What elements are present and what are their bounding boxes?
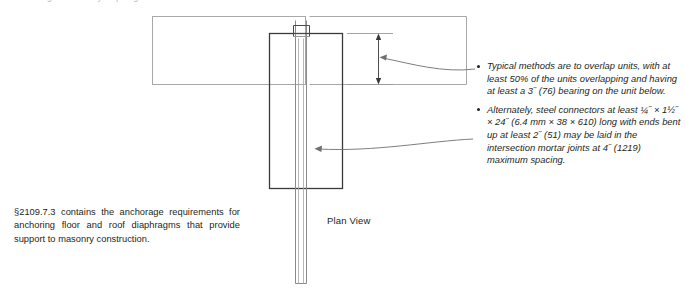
callout-text-steel-connectors: Alternately, steel connectors at least ¼… xyxy=(487,104,682,167)
callout-list: Typical methods are to overlap units, wi… xyxy=(477,60,682,173)
leader-arrowhead-connectors xyxy=(315,146,323,152)
slab-rectangle-left xyxy=(153,17,306,85)
leader-line-connectors xyxy=(318,139,473,150)
callout-text-overlap-units: Typical methods are to overlap units, wi… xyxy=(487,60,682,98)
plan-view-label: Plan View xyxy=(327,215,370,226)
code-section-note: §2109.7.3 contains the anchorage require… xyxy=(14,206,240,246)
callout-item-steel-connectors: Alternately, steel connectors at least ¼… xyxy=(477,104,682,167)
leader-arrowhead-overlap xyxy=(380,54,388,60)
dimension-arrowhead-top xyxy=(376,34,381,41)
slab-rectangle-right xyxy=(310,17,467,85)
bullet-icon xyxy=(477,60,487,68)
callout-item-overlap-units: Typical methods are to overlap units, wi… xyxy=(477,60,682,98)
leader-line-overlap xyxy=(383,58,475,70)
figure-page: anchorage of masonry diaphragm xyxy=(0,0,685,289)
bullet-icon xyxy=(477,104,487,112)
dimension-arrowhead-bottom xyxy=(376,78,381,85)
